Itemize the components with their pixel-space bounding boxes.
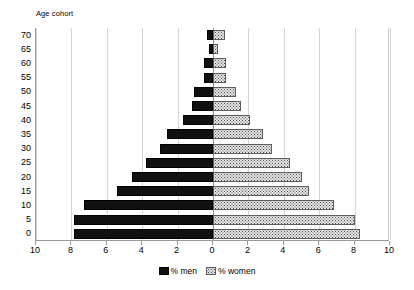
bar-men-55 [204, 73, 213, 83]
bar-row [36, 156, 388, 170]
bar-row [36, 56, 388, 70]
y-tick-label-50: 50 [5, 87, 31, 96]
bar-women-25 [213, 158, 290, 168]
bar-row [36, 28, 388, 42]
bar-row [36, 99, 388, 113]
x-tick-label-1: 8 [58, 246, 82, 255]
bar-women-30 [213, 144, 272, 154]
y-tick-label-60: 60 [5, 59, 31, 68]
bar-row [36, 170, 388, 184]
bar-women-40 [213, 115, 250, 125]
x-tick-label-9: 8 [342, 246, 366, 255]
bar-women-10 [213, 200, 334, 210]
bar-men-60 [204, 58, 213, 68]
x-tick-label-5: 0 [200, 246, 224, 255]
bar-men-25 [146, 158, 213, 168]
x-tick-label-4: 2 [165, 246, 189, 255]
y-tick-label-10: 10 [5, 201, 31, 210]
bar-row [36, 227, 388, 241]
bar-men-20 [132, 172, 213, 182]
y-tick-label-20: 20 [5, 173, 31, 182]
x-tick-label-3: 4 [129, 246, 153, 255]
y-tick-label-40: 40 [5, 116, 31, 125]
population-pyramid-chart: Age cohort 7065605550454035302520151050 … [0, 0, 414, 290]
bar-women-65 [213, 44, 218, 54]
x-tick-label-8: 6 [306, 246, 330, 255]
x-tick-label-10: 10 [377, 246, 401, 255]
bar-men-5 [74, 215, 213, 225]
legend-swatch-women-icon [206, 267, 216, 275]
legend-label-men: % men [171, 266, 197, 276]
x-tick-label-7: 4 [271, 246, 295, 255]
bar-women-0 [213, 229, 360, 239]
x-tick-label-2: 6 [94, 246, 118, 255]
bar-men-50 [194, 87, 213, 97]
bar-women-60 [213, 58, 226, 68]
bar-men-45 [192, 101, 213, 111]
y-tick-label-30: 30 [5, 144, 31, 153]
bar-row [36, 142, 388, 156]
bar-women-15 [213, 186, 309, 196]
bar-men-40 [183, 115, 213, 125]
legend-label-women: % women [218, 266, 255, 276]
legend-item-men: % men [159, 266, 197, 276]
y-tick-label-5: 5 [5, 215, 31, 224]
y-tick-label-65: 65 [5, 45, 31, 54]
bar-men-0 [74, 229, 213, 239]
y-tick-label-0: 0 [5, 229, 31, 238]
bar-women-20 [213, 172, 302, 182]
bar-men-10 [84, 200, 213, 210]
bar-women-35 [213, 129, 263, 139]
x-tick-label-0: 10 [23, 246, 47, 255]
bar-women-50 [213, 87, 236, 97]
plot-area [35, 28, 389, 241]
y-tick-label-45: 45 [5, 102, 31, 111]
bar-row [36, 198, 388, 212]
bar-men-30 [160, 144, 213, 154]
y-tick-label-25: 25 [5, 158, 31, 167]
bar-row [36, 213, 388, 227]
bar-row [36, 184, 388, 198]
chart-legend: % men % women [0, 266, 414, 276]
bar-row [36, 113, 388, 127]
bar-women-45 [213, 101, 241, 111]
bar-men-15 [117, 186, 213, 196]
y-tick-label-15: 15 [5, 187, 31, 196]
bar-men-35 [167, 129, 213, 139]
legend-item-women: % women [206, 266, 255, 276]
y-tick-label-55: 55 [5, 73, 31, 82]
bar-row [36, 42, 388, 56]
bar-row [36, 85, 388, 99]
legend-swatch-men-icon [159, 267, 169, 275]
bar-women-70 [213, 30, 225, 40]
bar-women-55 [213, 73, 226, 83]
y-tick-label-70: 70 [5, 31, 31, 40]
x-tick-label-6: 2 [235, 246, 259, 255]
y-tick-label-35: 35 [5, 130, 31, 139]
gridline [390, 28, 391, 240]
bar-women-5 [213, 215, 355, 225]
y-axis-title: Age cohort [36, 9, 73, 18]
bar-row [36, 71, 388, 85]
bar-row [36, 127, 388, 141]
